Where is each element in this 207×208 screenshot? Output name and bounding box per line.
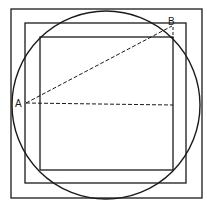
dashed-line-horizontal [26, 103, 173, 105]
middle-square [25, 23, 186, 183]
geometry-diagram: A B [0, 0, 207, 208]
label-a: A [15, 98, 22, 109]
label-b: B [168, 16, 175, 27]
